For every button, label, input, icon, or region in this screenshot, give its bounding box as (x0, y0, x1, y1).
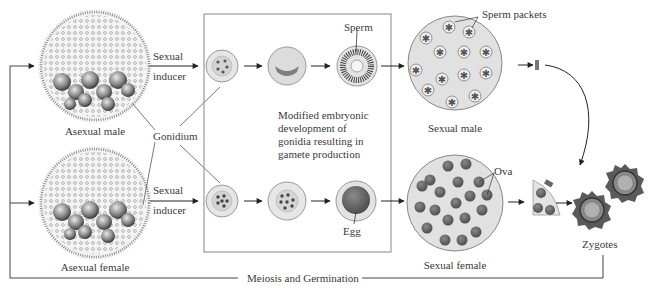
label-sperm: Sperm (344, 21, 373, 34)
label-sexual-inducer-bottom-2: inducer (153, 204, 186, 217)
label-sexual-inducer-top-2: inducer (153, 70, 186, 83)
fertilization-fragment (533, 179, 560, 215)
box-caption-line-4: gamete production (278, 148, 369, 161)
label-gonidium: Gonidium (153, 130, 198, 143)
svg-text:✱: ✱ (460, 70, 468, 81)
sperm-packet (535, 60, 539, 70)
label-sexual-male: Sexual male (405, 122, 505, 135)
label-zygotes: Zygotes (582, 238, 617, 251)
box-caption-line-1: Modified embryonic (278, 109, 369, 122)
svg-text:✱: ✱ (460, 47, 468, 58)
label-egg: Egg (343, 225, 361, 238)
svg-text:✱: ✱ (465, 27, 473, 38)
label-sexual-female: Sexual female (405, 259, 505, 272)
svg-text:✱: ✱ (482, 68, 490, 79)
sexual-female-colony (407, 155, 503, 251)
svg-text:✱: ✱ (471, 91, 479, 102)
label-sexual-inducer-bottom-1: Sexual (153, 184, 183, 197)
fertilization-arrow (545, 65, 589, 165)
svg-text:✱: ✱ (424, 85, 432, 96)
svg-text:✱: ✱ (438, 74, 446, 85)
male-development-row (206, 30, 377, 86)
svg-text:✱: ✱ (422, 33, 430, 44)
svg-text:✱: ✱ (412, 65, 420, 76)
svg-text:✱: ✱ (436, 47, 444, 58)
sexual-male-colony: ✱✱ ✱✱ ✱✱ ✱✱ ✱✱ ✱✱ ✱ (408, 16, 502, 110)
box-caption: Modified embryonic development of gonidi… (278, 109, 369, 161)
label-meiosis-germination: Meiosis and Germination (244, 272, 362, 285)
svg-text:✱: ✱ (445, 22, 453, 33)
label-sexual-inducer-top-1: Sexual (153, 50, 183, 63)
zygotes (572, 164, 644, 230)
box-caption-line-2: development of (278, 122, 369, 135)
asexual-female-colony (39, 147, 151, 259)
label-sperm-packets: Sperm packets (482, 8, 546, 21)
label-ova: Ova (494, 165, 512, 178)
svg-text:✱: ✱ (448, 97, 456, 108)
svg-text:✱: ✱ (482, 47, 490, 58)
label-asexual-male: Asexual male (45, 125, 145, 138)
female-development-row (206, 181, 376, 224)
box-caption-line-3: gonidia resulting in (278, 135, 369, 148)
label-asexual-female: Asexual female (45, 261, 145, 274)
